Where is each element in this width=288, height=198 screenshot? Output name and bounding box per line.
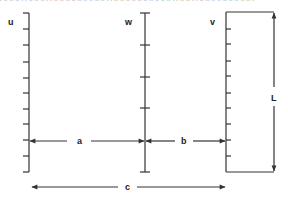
axes-layer: [23, 12, 274, 172]
dimension-label-a: a: [77, 136, 83, 146]
dimension-label-L: L: [271, 93, 277, 103]
dimension-label-c: c: [125, 182, 130, 192]
axis-label-v: v: [210, 17, 215, 27]
dimensions-layer: [30, 13, 274, 187]
dimension-label-b: b: [181, 136, 187, 146]
dimension-diagram: u w v a b c L: [0, 0, 288, 198]
labels-layer: u w v a b c L: [8, 17, 277, 192]
axis-label-u: u: [8, 17, 14, 27]
axis-label-w: w: [124, 17, 133, 27]
